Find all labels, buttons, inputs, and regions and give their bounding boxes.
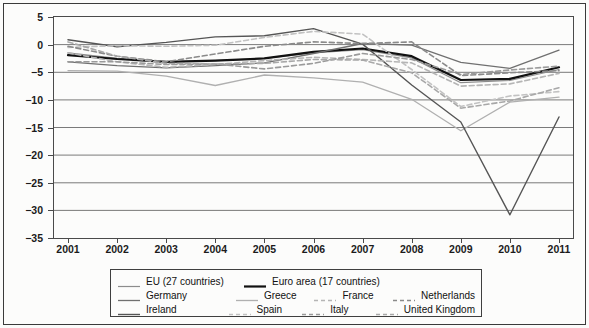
legend-item-united-kingdom[interactable]: United Kingdom bbox=[375, 304, 475, 315]
x-axis-tick-mark bbox=[559, 239, 560, 243]
legend-row: EU (27 countries)Euro area (17 countries… bbox=[117, 274, 475, 288]
x-axis-tick-label: 2008 bbox=[400, 243, 423, 255]
x-axis-tick-label: 2005 bbox=[253, 243, 276, 255]
x-axis-tick-label: 2004 bbox=[204, 243, 227, 255]
x-axis-tick-mark bbox=[264, 239, 265, 243]
legend-label: EU (27 countries) bbox=[146, 276, 224, 287]
x-axis-tick-label: 2001 bbox=[56, 243, 79, 255]
legend-label: Euro area (17 countries) bbox=[272, 276, 380, 287]
x-axis-tick-mark bbox=[461, 239, 462, 243]
x-axis-tick-mark bbox=[117, 239, 118, 243]
legend-swatch-icon bbox=[228, 305, 252, 314]
legend-swatch-icon bbox=[392, 291, 416, 300]
legend-item-netherlands[interactable]: Netherlands bbox=[392, 290, 475, 301]
x-axis-tick-label: 2011 bbox=[548, 243, 571, 255]
legend-label: Greece bbox=[264, 290, 297, 301]
legend-label: Germany bbox=[146, 290, 187, 301]
x-axis-tick-mark bbox=[314, 239, 315, 243]
x-axis-tick-mark bbox=[68, 239, 69, 243]
x-axis-tick-mark bbox=[510, 239, 511, 243]
legend-label: Spain bbox=[257, 304, 283, 315]
legend-swatch-icon bbox=[375, 305, 399, 314]
x-axis-tick-label: 2006 bbox=[302, 243, 325, 255]
legend-swatch-icon bbox=[117, 305, 141, 314]
legend-row: GermanyGreeceFranceNetherlands bbox=[117, 288, 475, 302]
legend-item-greece[interactable]: Greece bbox=[235, 290, 314, 301]
legend-item-euro-area-17-countries[interactable]: Euro area (17 countries) bbox=[243, 276, 380, 287]
chart-figure: 50−5−10−15−20−25−30−35 20012002200320042… bbox=[0, 0, 589, 328]
legend-item-eu-27-countries[interactable]: EU (27 countries) bbox=[117, 276, 243, 287]
legend-item-ireland[interactable]: Ireland bbox=[117, 304, 228, 315]
plot-area bbox=[53, 16, 574, 239]
x-axis-tick-label: 2010 bbox=[498, 243, 521, 255]
x-axis-tick-label: 2002 bbox=[105, 243, 128, 255]
data-series bbox=[68, 29, 559, 215]
x-axis-tick-label: 2007 bbox=[351, 243, 374, 255]
legend-label: United Kingdom bbox=[404, 304, 475, 315]
legend-swatch-icon bbox=[117, 277, 141, 286]
legend-swatch-icon bbox=[235, 291, 259, 300]
series-line-ireland bbox=[68, 29, 559, 215]
legend-swatch-icon bbox=[117, 291, 141, 300]
x-axis-tick-mark bbox=[166, 239, 167, 243]
x-axis-tick-label: 2003 bbox=[155, 243, 178, 255]
legend-item-france[interactable]: France bbox=[313, 290, 392, 301]
x-axis-tick-mark bbox=[412, 239, 413, 243]
legend-swatch-icon bbox=[313, 291, 337, 300]
legend-item-spain[interactable]: Spain bbox=[228, 304, 302, 315]
legend-label: France bbox=[342, 290, 373, 301]
legend-item-germany[interactable]: Germany bbox=[117, 290, 235, 301]
legend-label: Italy bbox=[330, 304, 348, 315]
legend-item-italy[interactable]: Italy bbox=[301, 304, 375, 315]
x-axis-tick-label: 2009 bbox=[449, 243, 472, 255]
x-axis-tick-mark bbox=[363, 239, 364, 243]
legend-label: Ireland bbox=[146, 304, 177, 315]
chart-legend: EU (27 countries)Euro area (17 countries… bbox=[110, 269, 482, 317]
legend-row: IrelandSpainItalyUnited Kingdom bbox=[117, 302, 475, 316]
series-canvas bbox=[54, 17, 573, 238]
legend-swatch-icon bbox=[301, 305, 325, 314]
legend-swatch-icon bbox=[243, 277, 267, 286]
legend-label: Netherlands bbox=[421, 290, 475, 301]
x-axis-tick-mark bbox=[215, 239, 216, 243]
